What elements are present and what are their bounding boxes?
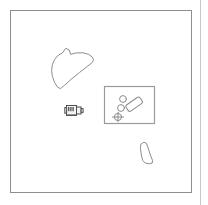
canvas-frame[interactable] [10,10,192,193]
scene-canvas-app: Scene Canvas 8 [0,0,208,205]
panel-divider [200,0,201,205]
